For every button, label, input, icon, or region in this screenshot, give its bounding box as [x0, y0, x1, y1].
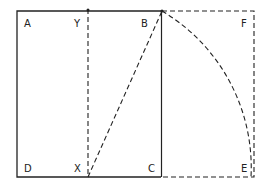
arc-be [162, 11, 251, 177]
label-f: F [241, 18, 247, 29]
label-x: X [74, 163, 81, 174]
label-c: C [148, 163, 155, 174]
label-y: Y [73, 18, 81, 29]
extension-outline [161, 11, 254, 177]
point-b-mark [160, 9, 163, 12]
label-b: B [141, 18, 148, 29]
golden-rectangle-diagram: A Y B F D X C E [0, 0, 263, 190]
square-outline [17, 11, 162, 177]
point-y-mark [87, 9, 90, 12]
label-e: E [241, 163, 247, 174]
label-d: D [24, 163, 32, 174]
diagonal-xb [88, 11, 162, 177]
label-a: A [24, 18, 31, 29]
